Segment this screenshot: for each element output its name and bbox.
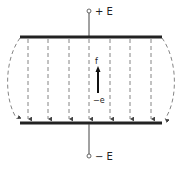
electron-force: f −e xyxy=(93,57,105,105)
capacitor-diagram: + E f −e − E xyxy=(0,0,185,171)
top-terminal: + E xyxy=(87,6,113,37)
charge-label: −e xyxy=(93,96,105,105)
terminal-node-icon xyxy=(87,9,91,13)
bottom-terminal-label: − E xyxy=(95,151,113,162)
fringe-field-lines xyxy=(8,38,175,119)
field-lines xyxy=(28,39,151,119)
terminal-node-icon xyxy=(87,154,91,158)
top-terminal-label: + E xyxy=(95,6,113,17)
force-arrow-head-icon xyxy=(96,66,101,72)
force-label: f xyxy=(95,57,98,66)
bottom-terminal: − E xyxy=(87,124,113,162)
